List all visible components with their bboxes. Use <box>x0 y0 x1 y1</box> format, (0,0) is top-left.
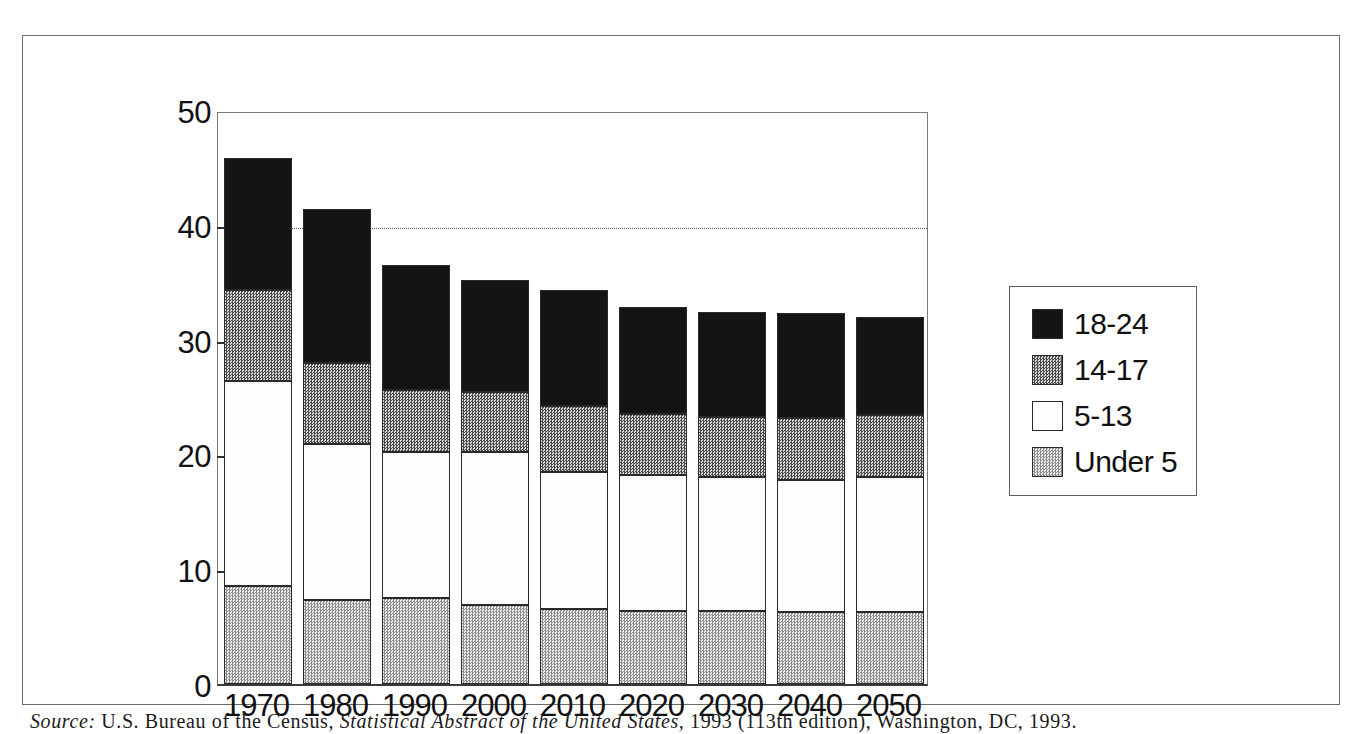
bar-segment-1980-18-24[interactable] <box>303 209 371 363</box>
legend-swatch-5-13 <box>1032 401 1063 431</box>
legend-item-14-17[interactable]: 14-17 <box>1032 347 1196 393</box>
bar-segment-1970-5-13[interactable] <box>224 381 292 586</box>
bar-group-2050[interactable] <box>856 317 924 684</box>
bar-segment-1980-under-5[interactable] <box>303 600 371 684</box>
bar-segment-2040-under-5[interactable] <box>777 612 845 684</box>
legend-item-under-5[interactable]: Under 5 <box>1032 439 1196 485</box>
source-label: Source: <box>30 710 96 732</box>
bar-group-1990[interactable] <box>382 265 450 684</box>
source-title: Statistical Abstract of the United State… <box>340 710 685 732</box>
plot-area <box>217 112 928 686</box>
bar-segment-2000-18-24[interactable] <box>461 280 529 393</box>
bar-group-2010[interactable] <box>540 290 608 684</box>
bar-segment-2050-14-17[interactable] <box>856 415 924 477</box>
bar-segment-1970-under-5[interactable] <box>224 586 292 684</box>
chart-legend: 18-2414-175-13Under 5 <box>1009 286 1197 496</box>
source-text-part-1: U.S. Bureau of the Census, <box>96 710 340 732</box>
source-text-part-2: 1993 (113th edition), Washington, DC, 19… <box>684 710 1077 732</box>
legend-label-14-17: 14-17 <box>1074 355 1148 385</box>
bar-segment-2000-5-13[interactable] <box>461 452 529 605</box>
legend-item-5-13[interactable]: 5-13 <box>1032 393 1196 439</box>
bars-layer <box>218 113 927 684</box>
bar-segment-2000-14-17[interactable] <box>461 392 529 452</box>
bar-group-2000[interactable] <box>461 280 529 684</box>
figure-frame: 01020304050 1970198019902000201020202030… <box>22 35 1340 705</box>
bar-segment-2040-18-24[interactable] <box>777 313 845 417</box>
bar-segment-2030-18-24[interactable] <box>698 312 766 416</box>
bar-segment-2010-18-24[interactable] <box>540 290 608 406</box>
bar-segment-1990-14-17[interactable] <box>382 390 450 452</box>
bar-segment-2010-5-13[interactable] <box>540 472 608 610</box>
bar-segment-2030-5-13[interactable] <box>698 477 766 610</box>
bar-segment-2020-under-5[interactable] <box>619 611 687 684</box>
legend-label-5-13: 5-13 <box>1074 401 1132 431</box>
bar-segment-1980-14-17[interactable] <box>303 363 371 445</box>
bar-segment-2020-18-24[interactable] <box>619 307 687 414</box>
bar-group-2040[interactable] <box>777 313 845 684</box>
y-tick-label-50: 50 <box>178 97 211 128</box>
legend-label-18-24: 18-24 <box>1074 309 1148 339</box>
legend-swatch-18-24 <box>1032 309 1063 339</box>
bar-segment-1990-5-13[interactable] <box>382 452 450 598</box>
y-tick-label-10: 10 <box>178 556 211 587</box>
y-tick-mark-20 <box>217 456 224 458</box>
bar-segment-2010-14-17[interactable] <box>540 406 608 471</box>
bar-segment-2010-under-5[interactable] <box>540 609 608 684</box>
y-tick-label-40: 40 <box>178 211 211 242</box>
bar-segment-2040-14-17[interactable] <box>777 418 845 480</box>
bar-segment-2000-under-5[interactable] <box>461 605 529 684</box>
source-caption: Source: U.S. Bureau of the Census, Stati… <box>30 709 1350 733</box>
bar-group-1980[interactable] <box>303 209 371 684</box>
y-tick-mark-40 <box>217 227 224 229</box>
legend-swatch-under-5 <box>1032 447 1063 477</box>
bar-group-1970[interactable] <box>224 158 292 684</box>
bar-group-2020[interactable] <box>619 307 687 684</box>
bar-segment-2050-under-5[interactable] <box>856 612 924 684</box>
y-tick-label-30: 30 <box>178 326 211 357</box>
bar-segment-2030-under-5[interactable] <box>698 611 766 684</box>
legend-label-under-5: Under 5 <box>1074 447 1177 477</box>
bar-segment-1990-under-5[interactable] <box>382 598 450 684</box>
legend-item-18-24[interactable]: 18-24 <box>1032 301 1196 347</box>
y-tick-label-20: 20 <box>178 441 211 472</box>
y-tick-label-0: 0 <box>194 671 211 702</box>
bar-segment-2040-5-13[interactable] <box>777 480 845 612</box>
y-tick-mark-30 <box>217 342 224 344</box>
bar-segment-2020-14-17[interactable] <box>619 414 687 475</box>
bar-segment-2020-5-13[interactable] <box>619 475 687 610</box>
bar-group-2030[interactable] <box>698 312 766 684</box>
bar-segment-1970-14-17[interactable] <box>224 290 292 381</box>
bar-segment-1990-18-24[interactable] <box>382 265 450 390</box>
legend-swatch-14-17 <box>1032 355 1063 385</box>
stacked-bar-chart: 01020304050 1970198019902000201020202030… <box>173 76 933 696</box>
y-axis: 01020304050 <box>173 112 211 686</box>
bar-segment-1980-5-13[interactable] <box>303 444 371 600</box>
bar-segment-2050-18-24[interactable] <box>856 317 924 416</box>
bar-segment-2050-5-13[interactable] <box>856 477 924 611</box>
bar-segment-1970-18-24[interactable] <box>224 158 292 290</box>
bar-segment-2030-14-17[interactable] <box>698 417 766 478</box>
y-tick-mark-10 <box>217 571 224 573</box>
